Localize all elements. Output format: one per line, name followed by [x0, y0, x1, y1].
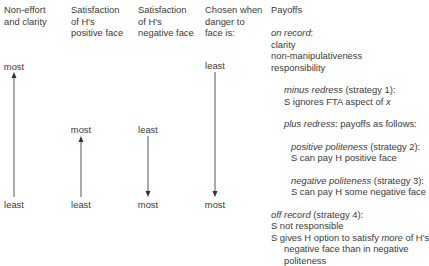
negative-politeness-heading: negative politeness (strategy 3): — [271, 175, 421, 187]
on-record-title: on record — [271, 27, 311, 38]
on-record-item: clarity — [271, 39, 421, 51]
minus-redress-suffix: (strategy 1): — [343, 84, 396, 95]
minus-redress-heading: minus redress (strategy 1): — [271, 84, 421, 96]
header-payoffs: Payoffs — [271, 4, 302, 16]
positive-politeness-title: positive politeness — [291, 141, 368, 152]
col1-bottom-label: least — [4, 199, 24, 211]
off-record-title: off record — [271, 209, 311, 220]
off-record-line2: S gives H option to satisfy more of H's — [271, 232, 421, 244]
header-chosen-when: Chosen when danger to face is: — [205, 4, 262, 39]
plus-redress-suffix: : payoffs as follows: — [335, 118, 417, 129]
negative-politeness-title: negative politeness — [291, 175, 371, 186]
on-record-item: responsibility — [271, 62, 421, 74]
col3-top-label: least — [138, 124, 158, 136]
positive-politeness-text: S can pay H positive face — [271, 152, 421, 164]
col1-top-label: most — [4, 61, 24, 73]
minus-redress-title: minus redress — [284, 84, 343, 95]
plus-redress-heading: plus redress: payoffs as follows: — [271, 118, 421, 130]
minus-redress-text-prefix: S ignores FTA aspect of — [284, 96, 386, 107]
col4-top-label: least — [205, 60, 225, 72]
off-record-line3: negative face than in negative — [271, 243, 421, 255]
off-record-line4: politeness — [271, 255, 421, 266]
on-record-item: non-manipulativeness — [271, 50, 421, 62]
header-positive-face: Satisfaction of H's positive face — [71, 4, 123, 39]
off-record-line2-em: more — [381, 232, 402, 243]
header-negative-face: Satisfaction of H's negative face — [138, 4, 194, 39]
off-record-line2-prefix: S gives H option to satisfy — [271, 232, 381, 243]
on-record-suffix: : — [311, 27, 314, 38]
minus-redress-var: x — [386, 96, 391, 107]
col2-bottom-label: least — [71, 199, 91, 211]
arrow-up-icon — [10, 72, 18, 198]
col3-bottom-label: most — [138, 199, 158, 211]
payoffs-column: on record: clarity non-manipulativeness … — [271, 27, 421, 266]
off-record-line2-suffix: of H's — [403, 232, 429, 243]
positive-politeness-suffix: (strategy 2): — [368, 141, 421, 152]
col2-top-label: most — [71, 124, 91, 136]
minus-redress-text: S ignores FTA aspect of x — [271, 96, 421, 108]
negative-politeness-text: S can pay H some negative face — [271, 186, 421, 198]
off-record-heading: off record (strategy 4): — [271, 209, 421, 221]
arrow-down-icon — [144, 136, 152, 198]
negative-politeness-suffix: (strategy 3): — [371, 175, 424, 186]
off-record-line1: S not responsible — [271, 220, 421, 232]
header-non-effort-clarity: Non-effort and clarity — [4, 4, 47, 27]
arrow-up-icon — [77, 136, 85, 198]
off-record-suffix: (strategy 4): — [311, 209, 364, 220]
plus-redress-title: plus redress — [284, 118, 335, 129]
positive-politeness-heading: positive politeness (strategy 2): — [271, 141, 421, 153]
arrow-down-icon — [211, 72, 219, 198]
col4-bottom-label: most — [205, 199, 225, 211]
on-record-heading: on record: — [271, 27, 421, 39]
